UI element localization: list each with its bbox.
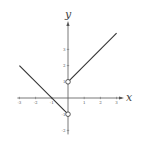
axes xyxy=(17,21,124,134)
open-endpoint-marker xyxy=(66,80,71,85)
y-tick-label: 1 xyxy=(63,79,66,84)
x-axis-label: x xyxy=(126,91,133,104)
y-tick-label: 3 xyxy=(63,47,66,52)
x-tick-label: 2 xyxy=(99,100,102,105)
y-axis-label: y xyxy=(64,8,72,21)
left-branch-line xyxy=(19,66,68,115)
piecewise-function-chart: -3-2-1123-2-1123 x y xyxy=(0,0,145,142)
y-tick-label: -1 xyxy=(62,112,66,117)
open-endpoint-marker xyxy=(66,112,71,117)
y-tick-label: -2 xyxy=(62,128,66,133)
y-axis-arrow xyxy=(66,21,69,26)
y-tick-label: 2 xyxy=(63,63,66,68)
x-tick-label: 1 xyxy=(83,100,86,105)
right-branch-line xyxy=(68,33,117,82)
x-tick-label: -1 xyxy=(50,100,54,105)
x-tick-label: 3 xyxy=(115,100,118,105)
x-axis-arrow xyxy=(119,96,124,99)
x-tick-label: -2 xyxy=(34,100,38,105)
x-tick-label: -3 xyxy=(17,100,21,105)
